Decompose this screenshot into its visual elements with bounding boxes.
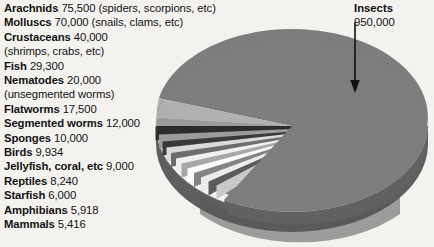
legend-name: Molluscs: [4, 16, 52, 28]
legend-value: 17,500: [63, 103, 97, 115]
list-item: Nematodes 20,000: [4, 73, 226, 87]
legend-note: (snails, clams, etc): [92, 16, 184, 28]
list-item: Starfish 6,000: [4, 188, 226, 202]
legend-name: Reptiles: [4, 175, 47, 187]
legend-value: 9,934: [35, 146, 63, 158]
legend-value: 40,000: [74, 31, 108, 43]
legend-continuation: (unsegmented worms): [4, 87, 226, 101]
species-legend-list: Arachnids 75,500 (spiders, scorpions, et…: [4, 1, 226, 232]
legend-name: Birds: [4, 146, 32, 158]
list-item: Flatworms 17,500: [4, 102, 226, 116]
legend-note: (spiders, scorpions, etc): [98, 2, 215, 14]
list-item: Reptiles 8,240: [4, 174, 226, 188]
legend-value: 70,000: [55, 16, 89, 28]
legend-value: 6,000: [48, 189, 76, 201]
legend-name: Starfish: [4, 189, 45, 201]
insects-callout-label: Insects: [354, 1, 395, 15]
legend-value: 5,918: [71, 204, 99, 216]
list-item: Crustaceans 40,000: [4, 30, 226, 44]
legend-name: Crustaceans: [4, 31, 71, 43]
legend-value: 75,500: [61, 2, 95, 14]
list-item: Sponges 10,000: [4, 131, 226, 145]
legend-name: Arachnids: [4, 2, 58, 14]
list-item: Jellyfish, coral, etc 9,000: [4, 159, 226, 173]
list-item: Molluscs 70,000 (snails, clams, etc): [4, 15, 226, 29]
list-item: Birds 9,934: [4, 145, 226, 159]
list-item: Mammals 5,416: [4, 217, 226, 231]
legend-value: 29,300: [30, 60, 64, 72]
legend-name: Fish: [4, 60, 27, 72]
legend-name: Nematodes: [4, 74, 64, 86]
legend-name: Segmented worms: [4, 117, 103, 129]
legend-continuation: (shrimps, crabs, etc): [4, 44, 226, 58]
list-item: Fish 29,300: [4, 59, 226, 73]
list-item: Arachnids 75,500 (spiders, scorpions, et…: [4, 1, 226, 15]
legend-name: Flatworms: [4, 103, 60, 115]
legend-value: 12,000: [106, 117, 140, 129]
list-item: Amphibians 5,918: [4, 203, 226, 217]
legend-value: 5,416: [58, 218, 86, 230]
list-item: Segmented worms 12,000: [4, 116, 226, 130]
legend-name: Sponges: [4, 132, 51, 144]
insects-callout-value: 950,000: [354, 15, 395, 29]
legend-value: 9,000: [106, 160, 134, 172]
legend-name: Mammals: [4, 218, 55, 230]
legend-value: 10,000: [54, 132, 88, 144]
legend-name: Jellyfish, coral, etc: [4, 160, 103, 172]
legend-value: 8,240: [50, 175, 78, 187]
pie-chart-figure: Insects 950,000 Arachnids 75,500 (spider…: [0, 0, 434, 247]
legend-value: 20,000: [67, 74, 101, 86]
legend-name: Amphibians: [4, 204, 68, 216]
insects-callout: Insects 950,000: [354, 1, 395, 29]
